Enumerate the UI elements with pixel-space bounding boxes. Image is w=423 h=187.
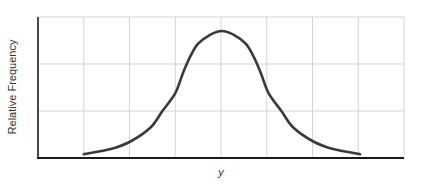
y-axis-label: Relative Frequency xyxy=(6,40,18,135)
chart xyxy=(0,0,423,187)
grid-lines xyxy=(38,17,404,158)
distribution-curve xyxy=(84,31,360,154)
x-axis-label: y xyxy=(218,166,224,178)
